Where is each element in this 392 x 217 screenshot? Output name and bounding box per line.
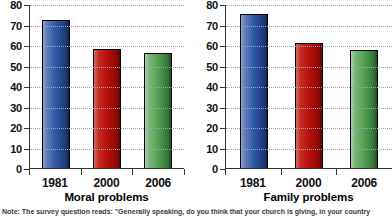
y-axis-tick xyxy=(220,46,225,47)
y-axis-tick-label: 70 xyxy=(10,20,22,31)
y-axis-tick xyxy=(24,149,29,150)
y-axis-tick xyxy=(220,128,225,129)
gridline xyxy=(30,108,184,109)
y-axis-tick-label: 20 xyxy=(10,123,22,134)
y-axis-tick-label: 40 xyxy=(206,82,218,93)
bar-slot xyxy=(133,4,184,168)
bar-group-left xyxy=(30,4,184,168)
y-axis-tick-label: 0 xyxy=(16,164,22,175)
y-axis-tick xyxy=(24,26,29,27)
gridline xyxy=(226,26,392,27)
bar-slot xyxy=(281,4,336,168)
y-axis-tick-label: 50 xyxy=(10,61,22,72)
y-axis-tick xyxy=(220,108,225,109)
x-axis-tick xyxy=(29,169,30,175)
chart-panel-family-problems: 01020304050607080 198120002006 Family pr… xyxy=(196,0,392,200)
plot-area-left xyxy=(29,5,184,169)
bar-1981 xyxy=(240,14,268,168)
y-axis-tick xyxy=(24,46,29,47)
x-axis-labels-left: 198120002006 xyxy=(29,176,184,190)
y-axis-tick-label: 10 xyxy=(10,143,22,154)
y-axis-tick xyxy=(220,149,225,150)
bar-1981 xyxy=(42,20,70,168)
x-axis-category-label: 1981 xyxy=(225,176,281,190)
gridline xyxy=(30,67,184,68)
bar-group-right xyxy=(226,4,392,168)
gridline xyxy=(226,67,392,68)
y-axis-tick-label: 30 xyxy=(206,102,218,113)
y-axis-tick xyxy=(24,128,29,129)
gridline xyxy=(30,5,184,6)
y-axis-tick xyxy=(24,87,29,88)
y-axis-tick-label: 10 xyxy=(206,143,218,154)
y-axis-tick xyxy=(220,26,225,27)
gridline xyxy=(226,46,392,47)
bar-slot xyxy=(81,4,132,168)
y-axis-tick xyxy=(24,67,29,68)
gridline xyxy=(226,5,392,6)
bar-slot xyxy=(30,4,81,168)
x-axis-tick xyxy=(132,169,133,175)
y-axis-tick xyxy=(220,169,225,170)
y-axis-tick xyxy=(220,87,225,88)
bar-2006 xyxy=(350,50,378,168)
gridline xyxy=(30,26,184,27)
x-axis-tick xyxy=(225,169,226,175)
gridline xyxy=(226,128,392,129)
gridline xyxy=(226,108,392,109)
chart-panels: 01020304050607080 198120002006 Moral pro… xyxy=(0,0,392,200)
x-axis-category-label: 2006 xyxy=(336,176,392,190)
gridline xyxy=(30,128,184,129)
gridline xyxy=(226,87,392,88)
y-axis-tick xyxy=(24,5,29,6)
y-axis-tick-label: 30 xyxy=(10,102,22,113)
y-axis-tick-label: 0 xyxy=(212,164,218,175)
x-axis-tick xyxy=(281,169,282,175)
gridline xyxy=(30,46,184,47)
y-axis-tick xyxy=(220,5,225,6)
plot-area-right xyxy=(225,5,392,169)
figure: 01020304050607080 198120002006 Moral pro… xyxy=(0,0,392,217)
y-axis-tick-label: 60 xyxy=(206,41,218,52)
y-axis-tick-label: 40 xyxy=(10,82,22,93)
gridline xyxy=(30,87,184,88)
y-axis-tick xyxy=(220,67,225,68)
y-axis-tick-label: 50 xyxy=(206,61,218,72)
x-axis-tick xyxy=(184,169,185,175)
y-axis-tick xyxy=(24,108,29,109)
chart-footnote: Note: The survey question reads: "Genera… xyxy=(2,208,392,216)
x-axis-category-label: 2000 xyxy=(81,176,133,190)
y-axis-tick-label: 60 xyxy=(10,41,22,52)
bar-slot xyxy=(226,4,281,168)
gridline xyxy=(30,149,184,150)
y-axis-labels-right: 01020304050607080 xyxy=(196,5,218,169)
gridline xyxy=(226,149,392,150)
x-axis-tick xyxy=(336,169,337,175)
panel-title-left: Moral problems xyxy=(29,191,184,203)
y-axis-labels-left: 01020304050607080 xyxy=(0,5,22,169)
x-axis-category-label: 1981 xyxy=(29,176,81,190)
x-axis-tick xyxy=(81,169,82,175)
x-axis-ticks-right xyxy=(225,169,392,175)
x-axis-ticks-left xyxy=(29,169,184,175)
y-axis-tick-label: 80 xyxy=(10,0,22,11)
x-axis-category-label: 2006 xyxy=(132,176,184,190)
bar-2006 xyxy=(144,53,172,168)
y-axis-tick-label: 80 xyxy=(206,0,218,11)
x-axis-labels-right: 198120002006 xyxy=(225,176,392,190)
x-axis-category-label: 2000 xyxy=(281,176,337,190)
y-axis-tick xyxy=(24,169,29,170)
chart-panel-moral-problems: 01020304050607080 198120002006 Moral pro… xyxy=(0,0,196,200)
panel-title-right: Family problems xyxy=(225,191,392,203)
y-axis-tick-label: 20 xyxy=(206,123,218,134)
y-axis-tick-label: 70 xyxy=(206,20,218,31)
bar-slot xyxy=(337,4,392,168)
